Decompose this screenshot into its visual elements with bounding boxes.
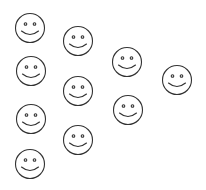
left-eye <box>171 75 174 78</box>
face-outline <box>16 150 45 179</box>
left-eye <box>24 159 27 162</box>
left-eye <box>25 114 28 117</box>
face-outline <box>64 126 93 155</box>
smiley-face-icon <box>64 126 93 155</box>
left-eye <box>72 86 75 89</box>
smile-mouth <box>70 44 87 48</box>
right-eye <box>33 159 36 162</box>
face-outline <box>64 77 93 106</box>
smiley-canvas <box>0 0 206 190</box>
face-outline <box>16 14 45 43</box>
right-eye <box>130 57 133 60</box>
smile-mouth <box>119 65 136 69</box>
right-eye <box>34 66 37 69</box>
smiley-face-icon <box>64 77 93 106</box>
left-eye <box>121 57 124 60</box>
left-eye <box>72 135 75 138</box>
smile-mouth <box>169 83 186 87</box>
face-outline <box>163 66 192 95</box>
face-outline <box>17 105 46 134</box>
left-eye <box>25 66 28 69</box>
right-eye <box>180 75 183 78</box>
smile-mouth <box>120 113 137 117</box>
smile-mouth <box>22 167 39 171</box>
smile-mouth <box>70 143 87 147</box>
face-outline <box>113 48 142 77</box>
smiley-face-icon <box>16 14 45 43</box>
smiley-face-icon <box>16 150 45 179</box>
smile-mouth <box>23 74 40 78</box>
smile-mouth <box>23 122 40 126</box>
right-eye <box>81 86 84 89</box>
smiley-face-icon <box>64 27 93 56</box>
smiley-face-icon <box>113 48 142 77</box>
smiley-face-icon <box>17 105 46 134</box>
right-eye <box>81 36 84 39</box>
smiley-faces-group <box>0 0 206 190</box>
face-outline <box>64 27 93 56</box>
smiley-face-icon <box>17 57 46 86</box>
right-eye <box>34 114 37 117</box>
face-outline <box>17 57 46 86</box>
right-eye <box>131 105 134 108</box>
left-eye <box>122 105 125 108</box>
right-eye <box>81 135 84 138</box>
smile-mouth <box>70 94 87 98</box>
left-eye <box>24 23 27 26</box>
smile-mouth <box>22 31 39 35</box>
smiley-face-icon <box>163 66 192 95</box>
smiley-face-icon <box>114 96 143 125</box>
right-eye <box>33 23 36 26</box>
left-eye <box>72 36 75 39</box>
face-outline <box>114 96 143 125</box>
